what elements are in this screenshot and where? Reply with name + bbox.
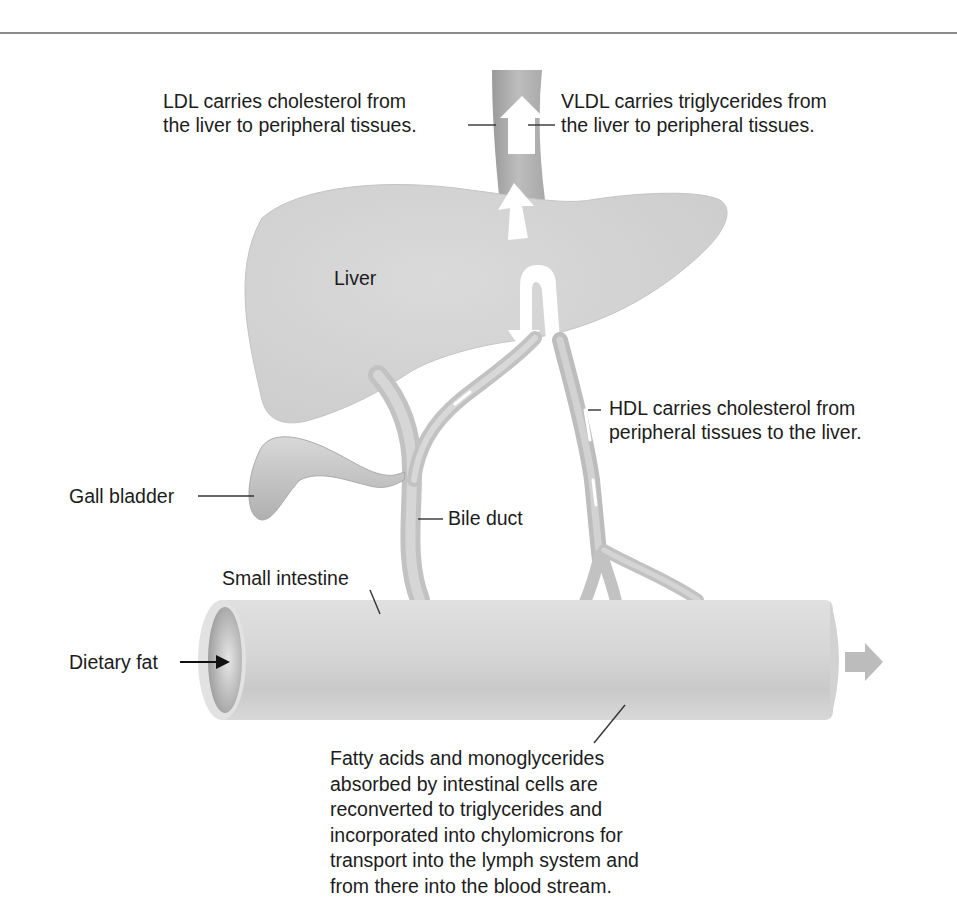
gall-bladder-label: Gall bladder [69,484,174,508]
liver-label: Liver [334,266,376,290]
bile-duct-label: Bile duct [448,506,523,530]
small-intestine-tube [198,600,839,720]
dietary-fat-label: Dietary fat [69,650,158,674]
outflow-arrow-icon [845,643,883,681]
ldl-label: LDL carries cholesterol from the liver t… [163,89,417,137]
absorption-caption: Fatty acids and monoglycerides absorbed … [330,746,639,899]
gall-bladder-organ [249,437,405,520]
small-intestine-label: Small intestine [222,566,349,590]
lymph-vessel [560,340,698,602]
vldl-label: VLDL carries triglycerides from the live… [561,89,827,137]
hdl-label: HDL carries cholesterol from peripheral … [609,396,862,444]
